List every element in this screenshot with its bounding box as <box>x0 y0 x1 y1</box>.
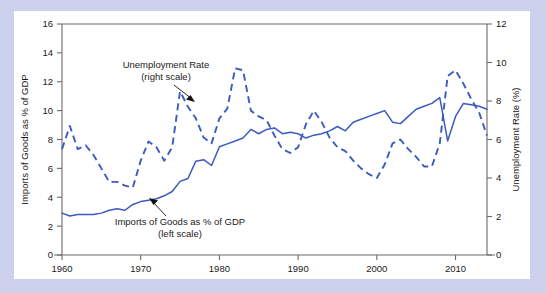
left-axis-tick-label: 10 <box>42 105 53 116</box>
left-axis-tick-label: 12 <box>42 76 53 87</box>
chart-card: 0246810121416024681012196019701980199020… <box>14 11 530 279</box>
imports-annotation-line1: Imports of Goods as % of GDP <box>115 216 245 227</box>
right-axis-tick-label: 6 <box>496 134 501 145</box>
right-axis-tick-label: 4 <box>496 172 501 183</box>
x-axis-tick-label: 2000 <box>366 263 387 274</box>
left-axis-tick-label: 16 <box>42 18 53 29</box>
series-line-imports-of-goods <box>62 98 487 216</box>
right-axis-tick-label: 10 <box>496 57 507 68</box>
x-axis-tick-label: 1980 <box>209 263 230 274</box>
series-group <box>62 68 487 216</box>
x-axis-tick-label: 1970 <box>130 263 151 274</box>
x-axis-tick-label: 1960 <box>51 263 72 274</box>
left-axis-tick-label: 6 <box>48 163 53 174</box>
dual-axis-line-chart: 0246810121416024681012196019701980199020… <box>14 11 530 279</box>
unemployment-annotation-arrow <box>186 95 195 102</box>
left-axis-tick-label: 0 <box>48 249 53 260</box>
imports-annotation-line2: (left scale) <box>158 228 202 239</box>
y-axis-title: Imports of Goods as % of GDP <box>19 74 30 204</box>
right-axis-tick-label: 0 <box>496 249 501 260</box>
left-axis-tick-label: 2 <box>48 221 53 232</box>
right-axis-tick-label: 12 <box>496 18 507 29</box>
unemployment-annotation-line1: Unemployment Rate <box>123 59 210 70</box>
right-axis-tick-label: 8 <box>496 95 501 106</box>
right-axis-tick-label: 2 <box>496 211 501 222</box>
x-axis-tick-label: 2010 <box>445 263 466 274</box>
y2-axis-title: Unemployment Rate (%) <box>510 87 521 191</box>
left-axis-tick-label: 4 <box>48 192 53 203</box>
figure-root: 0246810121416024681012196019701980199020… <box>0 0 546 293</box>
unemployment-annotation-line2: (right scale) <box>141 71 191 82</box>
annotation-group: Unemployment Rate(right scale)Imports of… <box>115 59 245 239</box>
left-axis-tick-label: 8 <box>48 134 53 145</box>
left-axis-tick-label: 14 <box>42 47 53 58</box>
x-axis-tick-label: 1990 <box>288 263 309 274</box>
axes-group: 0246810121416024681012196019701980199020… <box>19 18 521 274</box>
